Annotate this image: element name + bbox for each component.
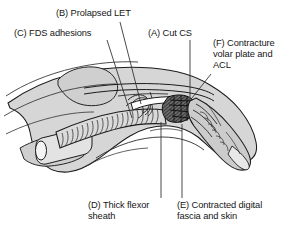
- annotation-f-contracture-volar-plate-acl: (F) Contracture volar plate and ACL: [213, 38, 275, 72]
- annotation-d-thick-flexor-sheath: (D) Thick flexor sheath: [88, 200, 149, 222]
- annotation-a-cut-cs: (A) Cut CS: [148, 28, 192, 39]
- annotation-b-prolapsed-let: (B) Prolapsed LET: [56, 8, 131, 19]
- annotation-e-contracted-digital-fascia-and-skin: (E) Contracted digital fascia and skin: [177, 200, 262, 222]
- figure-container: (B) Prolapsed LET (C) FDS adhesions (A) …: [0, 0, 298, 237]
- annotation-c-fds-adhesions: (C) FDS adhesions: [14, 28, 91, 39]
